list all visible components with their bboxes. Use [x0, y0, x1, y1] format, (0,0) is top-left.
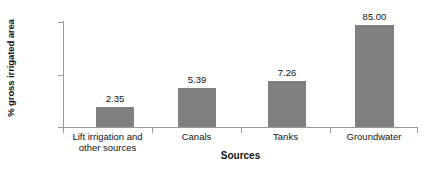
bar-column	[355, 21, 394, 127]
bar-value-label: 5.39	[172, 75, 222, 85]
x-category-label: Canals	[152, 131, 241, 142]
bar-value-label: 2.35	[90, 94, 140, 104]
y-axis-title: % gross irrigated area	[1, 0, 19, 154]
bar-canals	[178, 88, 216, 127]
bar-value-label: 7.26	[262, 68, 312, 78]
bar-groundwater	[355, 25, 394, 127]
bar-value-label: 85.00	[349, 12, 400, 22]
x-category-label: Groundwater	[330, 131, 418, 142]
x-axis-title: Sources	[63, 150, 418, 161]
bar-tanks	[268, 81, 306, 127]
bar-column	[96, 21, 134, 127]
bar-lift-irrigation-and-other-sources	[96, 107, 134, 127]
bar-chart: % gross irrigated area 100.00 10.00 1.00…	[0, 0, 427, 172]
y-axis-line	[63, 21, 64, 128]
x-category-label: Tanks	[241, 131, 330, 142]
